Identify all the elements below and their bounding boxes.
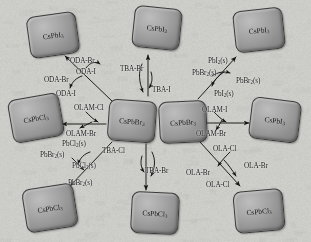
diagram-canvas: CsPbI3CsPbI3CsPbI3CsPbCl3CsPbBr3CsPbBr3C… [0,0,311,242]
reagent-label-suffix: (s) [226,90,233,98]
reagent-label-suffix: (s) [253,77,260,85]
crystal-label: CsPbCl3 [37,202,63,215]
reagent-label-l15: PbCl2(s) [62,141,86,148]
reagent-label-subscript: 2 [218,59,221,65]
reagent-label-l04: ODA-I [56,91,76,98]
reagent-label-text: PbI [214,90,224,98]
reagent-label-text: ODA-Br [44,76,69,84]
reagent-label-l06: TBA-I [152,87,171,94]
reagent-label-text: OLAM-Cl [74,104,104,112]
reagent-label-l24: OLA-Cl [206,182,229,189]
reagent-label-text: PbBr [192,69,206,77]
crystal-label: CsPbBr3 [119,116,145,127]
reagent-label-l07: PbI2(s) [208,58,227,65]
crystal-label: CsPbCl3 [246,205,272,216]
reagent-label-text: OLA-Br [244,162,268,170]
crystal-cl: CsPbBr3 [107,98,158,143]
reagent-label-l08: PbBr2(s) [192,70,216,77]
reagent-label-l02: ODA-I [76,69,96,76]
reagent-label-subscript: 2 [54,153,57,159]
reagent-label-l03: ODA-Br [44,77,69,84]
reagent-label-suffix: (s) [220,57,227,65]
crystal-label: CsPbCl3 [142,208,168,218]
reagent-label-l01: ODA-Br [70,58,95,65]
reagent-label-text: TBA-I [152,86,171,94]
reagent-label-subscript: 2 [82,181,85,187]
reagent-label-text: ODA-I [56,90,76,98]
reagent-label-text: OLA-Cl [213,145,236,153]
crystal-label-subscript: 3 [164,28,167,34]
crystal-label-subscript: 3 [60,205,64,211]
reagent-label-l10: PbI2(s) [214,91,233,98]
reagent-label-suffix: (s) [85,179,92,187]
crystal-bc: CsPbCl3 [130,191,180,235]
reagent-label-suffix: (s) [209,69,216,77]
crystal-label: CsPbI3 [146,22,167,33]
crystal-tr: CsPbI3 [232,7,286,54]
crystal-tl: CsPbI3 [25,11,80,60]
reagent-label-text: ODA-Br [70,57,95,65]
reagent-label-l17: PbCl2(s) [72,163,96,170]
reagent-label-text: OLAM-I [202,106,227,114]
reagent-label-l14: OLAM-Br [196,131,226,138]
crystal-bl: CsPbCl3 [21,182,79,234]
reagent-label-text: OLA-Br [186,169,210,177]
crystal-label: CsPbI3 [42,29,64,41]
reagent-label-text: OLA-Cl [206,181,229,189]
reagent-label-text: PbI [208,57,218,65]
reagent-label-l05: TBA-Br [120,66,143,73]
crystal-label-subscript: 3 [61,32,64,38]
reagent-label-l20: TBA-Br [145,168,168,175]
reagent-label-text: TBA-Br [120,65,143,73]
crystal-tc: CsPbI3 [131,5,183,52]
arrow-group-midleft [62,112,106,128]
reagent-label-l23: OLA-Br [186,170,210,177]
reagent-label-text: TBA-Br [145,167,168,175]
reagent-label-suffix: (s) [78,140,85,148]
reagent-label-text: OLAM-Br [66,130,96,138]
reagent-label-l18: PbBr2(s) [68,180,92,187]
reagent-label-text: PbCl [62,140,76,148]
crystal-br: CsPbCl3 [232,188,285,234]
reagent-label-subscript: 2 [224,92,227,98]
reagent-label-l16: PbBr2(s) [40,152,64,159]
reagent-label-text: OLAM-Br [196,130,226,138]
reagent-label-l21: OLA-Cl [213,146,236,153]
crystal-label-subscript: 3 [46,115,50,121]
reagent-label-subscript: 2 [250,79,253,85]
arrow-group-topcenter [139,55,152,96]
reagent-label-text: ODA-I [76,68,96,76]
reagent-label-suffix: (s) [57,151,64,159]
reagent-label-suffix: (s) [88,162,95,170]
reagent-label-l11: OLAM-Cl [74,105,104,112]
reagent-label-l22: OLA-Br [244,163,268,170]
reagent-label-l12: OLAM-Br [66,131,96,138]
reagent-label-l19: TBA-Cl [102,148,125,155]
arrow-group-midright [207,112,249,130]
crystal-label: CsPbI3 [248,24,269,35]
reagent-label-text: PbCl [72,162,86,170]
reagent-label-l13: OLAM-I [202,107,227,114]
crystal-ml: CsPbCl3 [7,92,66,144]
crystal-label-subscript: 3 [142,121,145,127]
reagent-label-text: PbBr [40,151,54,159]
reagent-label-subscript: 2 [206,71,209,77]
crystal-label-subscript: 3 [165,212,168,218]
reagent-label-text: TBA-Cl [102,147,125,155]
crystal-label-subscript: 3 [282,120,285,126]
crystal-label: CsPbBr3 [170,117,196,127]
crystal-label: CsPbI3 [264,114,286,125]
crystal-label-subscript: 3 [193,120,196,126]
reagent-label-l09: PbBr2(s) [236,78,260,85]
reagent-label-text: PbBr [68,179,82,187]
reagent-label-text: PbBr [236,77,250,85]
crystal-label-subscript: 3 [267,28,270,34]
crystal-label-subscript: 3 [269,209,272,215]
crystal-mr: CsPbI3 [248,96,303,144]
crystal-label: CsPbCl3 [23,111,49,124]
